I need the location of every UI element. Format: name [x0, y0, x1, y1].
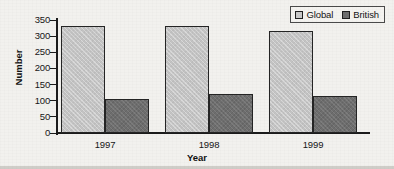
- plot-area: [57, 20, 369, 133]
- legend-label-global: Global: [306, 9, 333, 20]
- bar-global-1999: [269, 31, 313, 133]
- x-axis-label-1998: 1998: [179, 139, 239, 150]
- y-axis-tick-label: 300: [4, 30, 50, 41]
- chart-legend: Global British: [290, 6, 385, 23]
- x-axis-label-1999: 1999: [283, 139, 343, 150]
- y-axis-tick-label: 350: [4, 14, 50, 25]
- y-axis-title: Number: [13, 38, 24, 98]
- x-axis-label-1997: 1997: [75, 139, 135, 150]
- legend-swatch-british-icon: [342, 11, 350, 19]
- y-axis-ticks: 050100150200250300350: [0, 0, 50, 169]
- legend-item-british: British: [342, 9, 379, 20]
- y-axis-tick-label: 250: [4, 46, 50, 57]
- y-axis-tick-label: 50: [4, 111, 50, 122]
- bar-global-1998: [165, 26, 209, 133]
- bar-british-1999: [313, 96, 357, 133]
- bar-group: [61, 20, 149, 133]
- legend-swatch-global-icon: [295, 11, 303, 19]
- legend-label-british: British: [353, 9, 379, 20]
- bar-group: [165, 20, 253, 133]
- y-axis-tick-label: 100: [4, 95, 50, 106]
- legend-item-global: Global: [295, 9, 333, 20]
- x-axis-title: Year: [0, 152, 394, 163]
- y-axis-tick-label: 0: [4, 127, 50, 138]
- y-axis-tick-label: 150: [4, 79, 50, 90]
- bar-global-1997: [61, 26, 105, 134]
- y-axis-tick-label: 200: [4, 62, 50, 73]
- bar-chart: 050100150200250300350 Number 19971998199…: [0, 0, 394, 169]
- bar-british-1997: [105, 99, 149, 133]
- bar-british-1998: [209, 94, 253, 133]
- bar-group: [269, 20, 357, 133]
- page-bottom-edge: [0, 166, 394, 169]
